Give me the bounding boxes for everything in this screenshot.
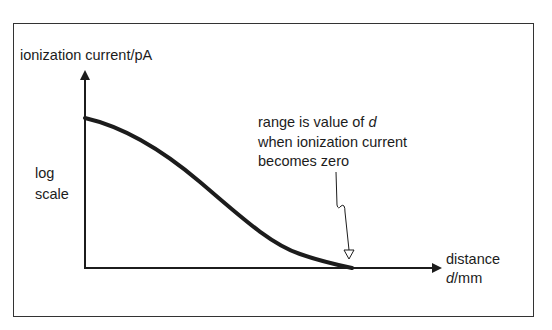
annotation-line2: when ionization current	[258, 133, 407, 153]
annotation-line3: becomes zero	[258, 152, 407, 172]
x-axis-label-line1: distance	[446, 250, 500, 269]
x-axis-label: distance d/mm	[446, 250, 500, 288]
log-scale-note: log scale	[35, 163, 69, 205]
y-axis-label: ionization current/pA	[20, 47, 152, 64]
x-axis-label-line2: d/mm	[446, 269, 500, 288]
log-scale-line1: log	[35, 163, 69, 184]
annotation-leader-line	[336, 172, 349, 250]
log-scale-line2: scale	[35, 184, 69, 205]
open-arrowhead-icon	[344, 250, 354, 259]
annotation-line1: range is value of d	[258, 113, 407, 133]
range-annotation: range is value of d when ionization curr…	[258, 113, 407, 172]
